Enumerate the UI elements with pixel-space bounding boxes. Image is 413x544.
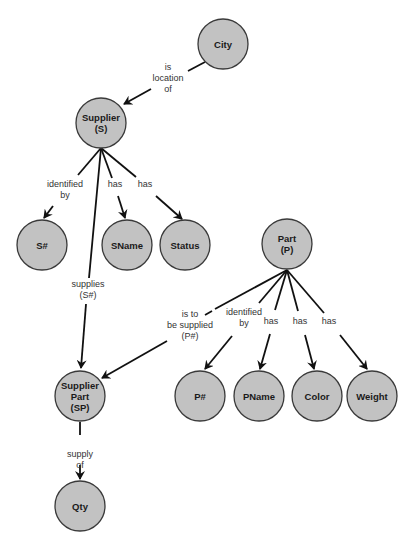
- edge-label: identifiedby: [226, 307, 262, 328]
- edge-arrow-segment: [81, 304, 86, 368]
- node-label: Color: [305, 391, 330, 402]
- edge-segment: [205, 311, 212, 315]
- edge-label-line: (S#): [79, 290, 96, 300]
- edge-label-line: is to: [182, 309, 199, 319]
- node-label: P#: [194, 391, 206, 402]
- node-label: Part: [71, 391, 90, 402]
- node-supplier-part: SupplierPart(SP): [55, 371, 105, 421]
- edge-label-line: has: [264, 316, 279, 326]
- node-label: (S): [95, 123, 108, 134]
- edge-label-line: by: [239, 318, 249, 328]
- edge-label-line: has: [108, 179, 123, 189]
- node-label: (SP): [71, 402, 90, 413]
- edge-label-line: identified: [226, 307, 262, 317]
- node-sname: SName: [102, 220, 152, 270]
- edge-arrow-segment: [102, 341, 167, 378]
- node-label: City: [214, 39, 233, 50]
- node-city: City: [198, 19, 248, 69]
- node-label: Part: [278, 233, 297, 244]
- edge-label: has: [322, 316, 337, 326]
- node-label: (P): [281, 244, 294, 255]
- edge-arrow-segment: [340, 335, 367, 369]
- node-s-num: S#: [17, 220, 67, 270]
- edge-segment: [78, 148, 101, 175]
- node-label: Supplier: [61, 380, 99, 391]
- edge-arrow-segment: [156, 196, 182, 219]
- semantic-network-diagram: islocationofidentifiedbyhashassupplies(S…: [0, 0, 413, 544]
- node-status: Status: [160, 220, 210, 270]
- edge-arrow-segment: [260, 334, 270, 369]
- edge-label: identifiedby: [47, 179, 83, 200]
- edge-supplier-to-supplier-part: [81, 148, 101, 368]
- edge-arrow-segment: [124, 89, 151, 104]
- edge-label-line: supplies: [71, 279, 105, 289]
- edge-label: has: [293, 316, 308, 326]
- node-label: Status: [170, 240, 199, 251]
- node-part: Part(P): [262, 219, 312, 269]
- edge-label: supplies(S#): [71, 279, 105, 300]
- node-supplier: Supplier(S): [76, 98, 126, 148]
- node-p-num: P#: [175, 371, 225, 421]
- edge-segment: [89, 148, 101, 278]
- edge-label-line: be supplied: [167, 320, 213, 330]
- node-label: Qty: [72, 501, 89, 512]
- node-pname: PName: [234, 371, 284, 421]
- node-label: S#: [36, 240, 48, 251]
- edge-label: has: [108, 179, 123, 189]
- edge-label-line: (P#): [181, 331, 198, 341]
- edge-label-line: is: [165, 62, 172, 72]
- edge-label: islocationof: [152, 62, 183, 94]
- node-weight: Weight: [347, 371, 397, 421]
- node-label: Weight: [356, 391, 388, 402]
- edge-label-line: has: [293, 316, 308, 326]
- edge-label-line: supply: [67, 449, 94, 459]
- edge-segment: [188, 62, 205, 71]
- node-label: SName: [111, 240, 143, 251]
- edge-arrow-segment: [305, 335, 314, 369]
- edge-label: supplyof: [67, 449, 94, 470]
- edge-label-line: identified: [47, 179, 83, 189]
- node-qty: Qty: [55, 481, 105, 531]
- edge-label-line: has: [322, 316, 337, 326]
- edge-label-line: location: [152, 73, 183, 83]
- node-label: PName: [243, 391, 275, 402]
- node-label: Supplier: [82, 112, 120, 123]
- node-color: Color: [292, 371, 342, 421]
- edge-arrow-segment: [44, 206, 53, 218]
- edge-label: has: [138, 179, 153, 189]
- edge-arrow-segment: [118, 196, 125, 218]
- edge-label-line: by: [60, 190, 70, 200]
- edge-label-line: of: [76, 460, 84, 470]
- edge-label-line: of: [164, 84, 172, 94]
- edge-label: has: [264, 316, 279, 326]
- edge-label-line: has: [138, 179, 153, 189]
- edge-arrow-segment: [205, 336, 232, 369]
